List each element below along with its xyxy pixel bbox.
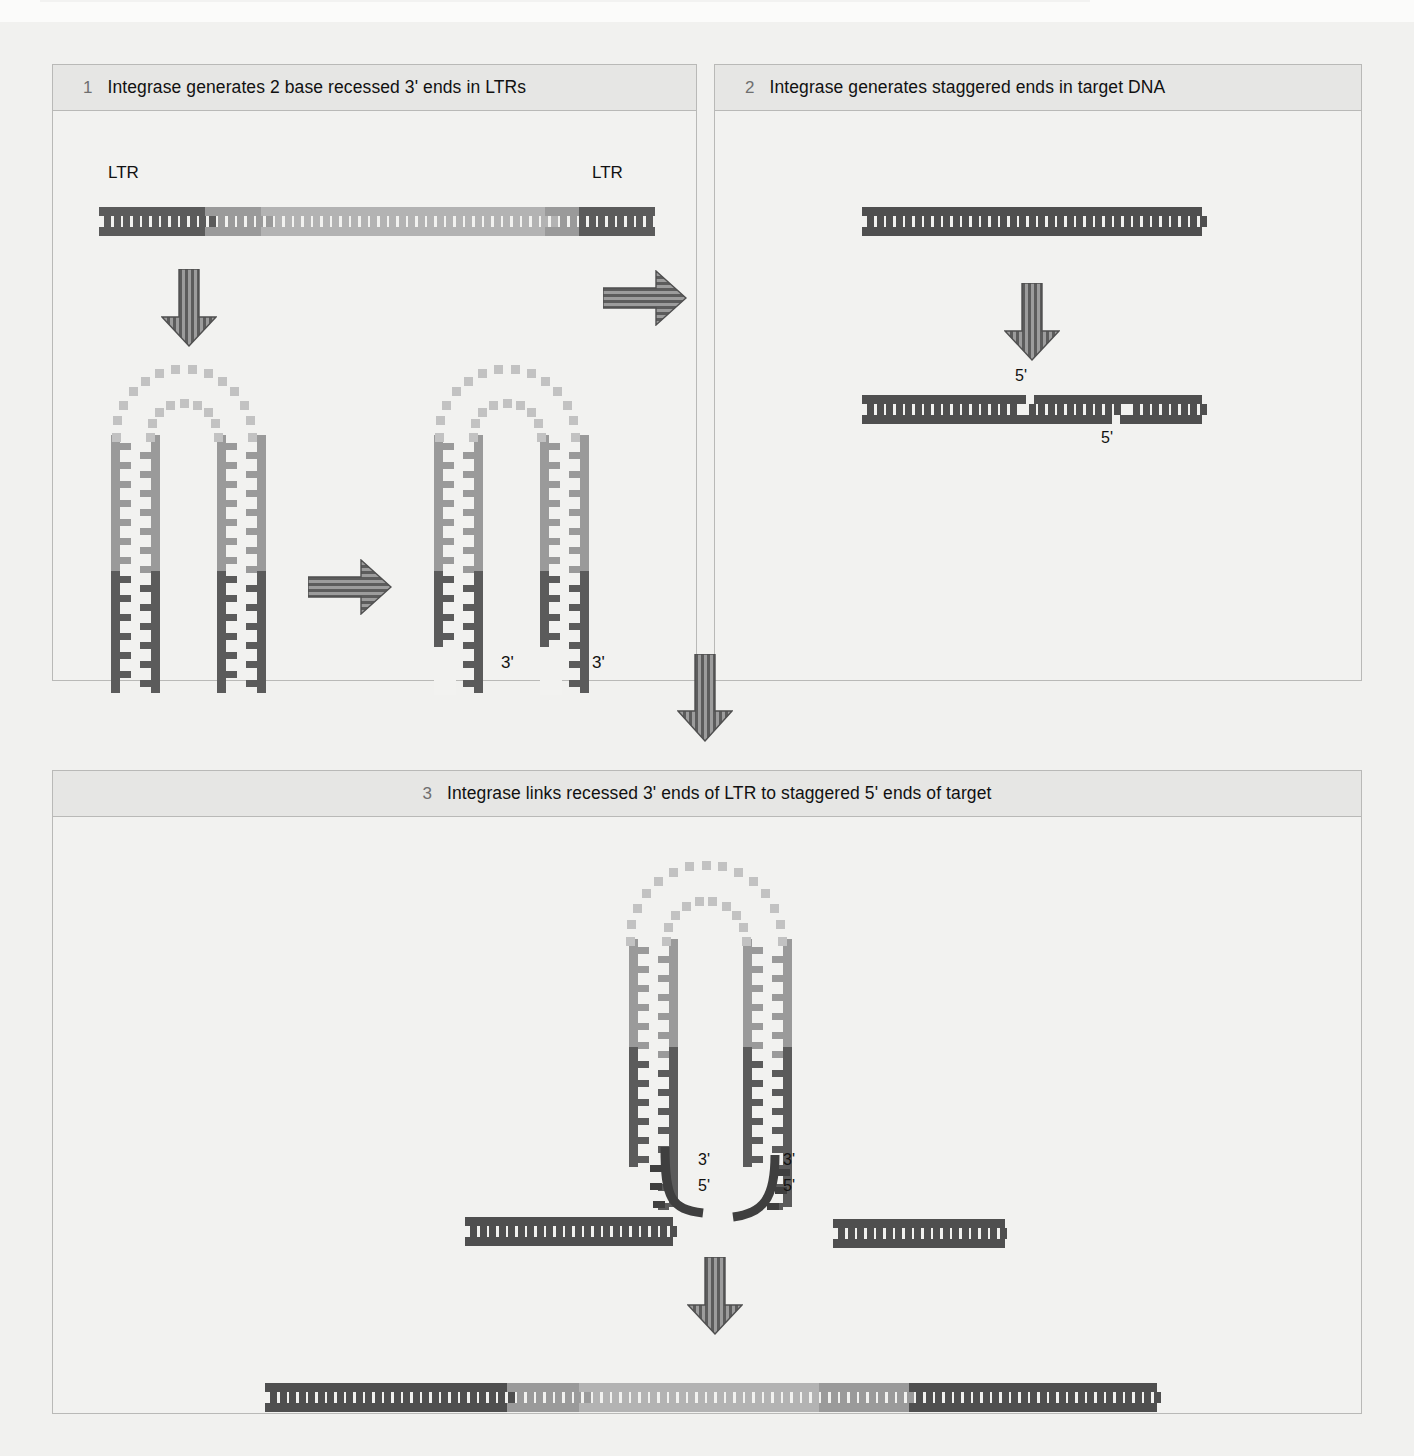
ltr-right-label: LTR [592,163,623,183]
panel-step-1: 1 Integrase generates 2 base recessed 3'… [52,64,697,681]
viral-dna-duplex-linear [99,207,655,236]
viral-dna-hairpin-recessed [428,363,588,693]
p3-five-prime-left: 5' [698,1177,710,1195]
five-prime-top-label: 5' [1015,367,1027,385]
integrated-provirus-duplex [265,1383,1157,1412]
ltr-left-label: LTR [108,163,139,183]
panel1-to-panel2-right-arrow [603,270,687,326]
target-dna-duplex-staggered-cut [862,395,1202,424]
panel-3-body: 3' 5' 3' 5' [53,817,1361,1413]
panel-2-step-title: Integrase generates staggered ends in ta… [769,77,1165,98]
panel-step-2: 2 Integrase generates staggered ends in … [714,64,1362,681]
top-cutoff-strip [0,0,1414,22]
panel-2-header: 2 Integrase generates staggered ends in … [715,65,1361,111]
panel-3-step-title: Integrase links recessed 3' ends of LTR … [447,783,992,804]
target-dna-duplex-intact [862,207,1202,236]
panel3-down-arrow [687,1257,743,1335]
integration-junction [403,1147,1043,1267]
figure-canvas: 1 Integrase generates 2 base recessed 3'… [0,22,1414,1456]
target-dna-half-site-left [465,1217,673,1246]
three-prime-left-label: 3' [501,653,514,673]
panel-1-step-title: Integrase generates 2 base recessed 3' e… [107,77,526,98]
panel-step-3: 3 Integrase links recessed 3' ends of LT… [52,770,1362,1414]
panel-1-step-number: 1 [83,78,92,98]
panels-to-panel3-down-arrow [677,654,733,742]
three-prime-right-label: 3' [592,653,605,673]
target-dna-half-site-right [833,1219,1005,1248]
p3-three-prime-right: 3' [783,1151,795,1169]
panel2-down-arrow [1004,283,1060,361]
viral-dna-hairpin-unprocessed [105,363,265,693]
panel-2-step-number: 2 [745,78,754,98]
p3-five-prime-right: 5' [783,1177,795,1195]
p3-three-prime-left: 3' [698,1151,710,1169]
panel-2-body: 5' 5' [715,111,1361,680]
cutoff-text-ghost [40,0,1090,2]
panel-3-step-number: 3 [423,784,432,804]
panel1-down-arrow-1 [161,269,217,347]
panel-1-header: 1 Integrase generates 2 base recessed 3'… [53,65,696,111]
panel-1-body: LTR LTR [53,111,696,680]
panel-3-header: 3 Integrase links recessed 3' ends of LT… [53,771,1361,817]
five-prime-bottom-label: 5' [1101,429,1113,447]
panel1-right-arrow [308,559,392,615]
